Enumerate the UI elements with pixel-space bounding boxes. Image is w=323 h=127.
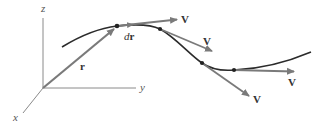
y-axis-label: y xyxy=(140,82,145,93)
z-axis-label: z xyxy=(41,3,45,14)
position-vector-label: r xyxy=(80,61,85,72)
x-axis xyxy=(23,88,43,113)
differential-r: r xyxy=(130,30,135,42)
velocity-vector-4 xyxy=(234,70,294,72)
diagram-canvas xyxy=(0,0,323,127)
velocity-label-1: V xyxy=(181,14,189,25)
velocity-vector-3 xyxy=(202,63,249,96)
curve-point-2 xyxy=(158,27,162,31)
velocity-field-diagram: z y x r dr V V V V xyxy=(0,0,323,127)
velocity-label-4: V xyxy=(288,77,296,88)
curve-point-3 xyxy=(200,61,204,65)
curve-point-4 xyxy=(232,68,236,72)
curve-point-1 xyxy=(115,24,120,29)
velocity-label-3: V xyxy=(253,94,261,105)
x-axis-label: x xyxy=(13,112,18,123)
differential-label: dr xyxy=(124,31,134,42)
space-curve xyxy=(62,25,311,71)
velocity-label-2: V xyxy=(203,36,211,47)
